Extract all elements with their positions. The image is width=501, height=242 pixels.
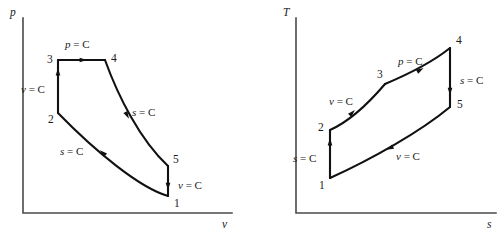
state-label-2: 2 (318, 121, 324, 133)
process-5-to-1 (330, 107, 450, 178)
process-4-to-5-label: s = C (460, 74, 483, 86)
process-2-to-3-label: v = C (21, 83, 45, 95)
chart-panel-Ts: Tss = Cv = Cp = Cs = Cv = C12345 (283, 6, 496, 230)
process-4-to-5-arrow-icon (448, 88, 453, 96)
y-axis-label: p (9, 6, 16, 19)
y-axis-label: T (283, 6, 291, 18)
process-3-to-4-label: p = C (397, 55, 423, 67)
axis-lines (296, 18, 496, 213)
process-1-to-2-label: s = C (60, 145, 83, 157)
process-5-to-1-label: v = C (396, 150, 420, 162)
chart-panel-pv: pvs = Cv = Cp = Cs = Cv = C12345 (9, 6, 232, 230)
process-3-to-4-arrow-icon (80, 58, 88, 63)
process-1-to-2-arrow-icon-shape (328, 138, 333, 146)
process-5-to-1-arrow-icon-shape (166, 183, 171, 191)
process-3-to-4-arrow-icon-shape (80, 58, 88, 63)
process-4-to-5-arrow-icon-shape (448, 88, 453, 96)
process-1-to-2-label: s = C (293, 152, 316, 164)
state-label-3: 3 (377, 68, 383, 80)
state-label-5: 5 (457, 98, 463, 110)
state-label-2: 2 (48, 113, 54, 125)
state-label-3: 3 (47, 53, 53, 65)
process-1-to-2-arrow-icon (328, 138, 333, 146)
thermodynamic-cycle-figure: pvs = Cv = Cp = Cs = Cv = C12345Tss = Cv… (0, 0, 501, 242)
process-3-to-4-label: p = C (64, 38, 90, 50)
process-5-to-1-arrow-icon (166, 183, 171, 191)
state-label-4: 4 (111, 52, 117, 64)
state-label-4: 4 (456, 34, 462, 46)
cycle-diagrams-svg: pvs = Cv = Cp = Cs = Cv = C12345Tss = Cv… (0, 0, 501, 242)
state-label-5: 5 (173, 153, 179, 165)
x-axis-label: v (222, 218, 228, 230)
process-2-to-3-arrow-icon-shape (56, 68, 61, 76)
x-axis-label: s (487, 218, 492, 230)
process-2-to-3-arrow-icon (56, 68, 61, 76)
process-4-to-5-label: s = C (132, 106, 155, 118)
process-2-to-3-label: v = C (329, 95, 353, 107)
process-2-to-3 (330, 84, 385, 130)
state-label-1: 1 (174, 197, 180, 209)
process-5-to-1-label: v = C (178, 179, 202, 191)
state-label-1: 1 (319, 179, 325, 191)
